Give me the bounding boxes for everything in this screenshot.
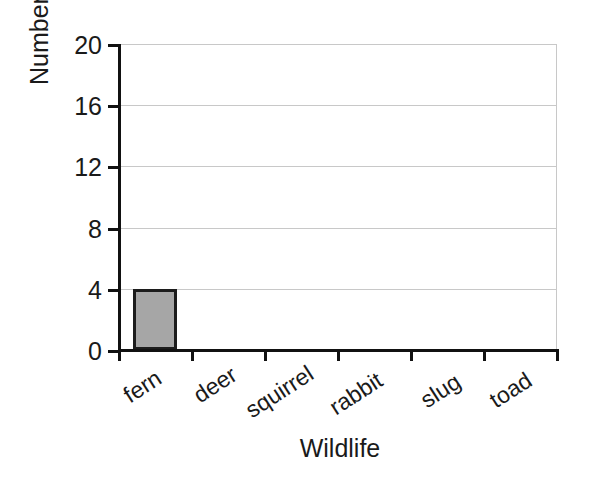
x-tick-3 <box>337 349 340 361</box>
gridline-4 <box>120 289 556 290</box>
bar-chart: Number seen 20 16 12 8 4 0 fern deer <box>0 0 592 484</box>
gridline-16 <box>120 105 556 106</box>
x-label-rabbit: rabbit <box>325 367 388 421</box>
y-tick-8 <box>108 228 119 231</box>
y-tick-20 <box>108 44 119 47</box>
y-tick-12 <box>108 166 119 169</box>
y-axis-line <box>118 44 121 352</box>
y-tick-label-20: 20 <box>2 31 102 60</box>
x-label-slug: slug <box>416 368 466 414</box>
y-tick-label-16: 16 <box>2 92 102 121</box>
gridline-12 <box>120 166 556 167</box>
y-tick-label-12: 12 <box>2 153 102 182</box>
bar-fern <box>133 289 177 350</box>
x-label-toad: toad <box>485 367 537 414</box>
x-tick-1 <box>191 349 194 361</box>
x-label-squirrel: squirrel <box>241 360 319 424</box>
gridline-8 <box>120 228 556 229</box>
x-axis-title: Wildlife <box>120 434 560 463</box>
y-tick-label-8: 8 <box>2 214 102 243</box>
gridline-20 <box>120 44 556 45</box>
x-tick-5 <box>483 349 486 361</box>
x-tick-6 <box>556 349 559 361</box>
x-tick-2 <box>264 349 267 361</box>
x-label-deer: deer <box>189 361 242 409</box>
x-tick-0 <box>118 349 121 361</box>
y-tick-4 <box>108 289 119 292</box>
x-label-fern: fern <box>119 365 167 409</box>
y-tick-label-4: 4 <box>2 275 102 304</box>
plot-area <box>120 44 557 350</box>
x-tick-4 <box>410 349 413 361</box>
y-tick-16 <box>108 105 119 108</box>
y-tick-label-0: 0 <box>2 337 102 366</box>
